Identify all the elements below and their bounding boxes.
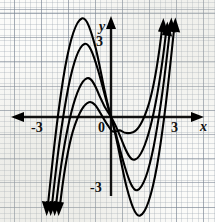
y-axis-label: y	[99, 20, 105, 34]
y-axis-up-arrow	[106, 16, 116, 29]
plot-canvas	[0, 0, 215, 222]
x-tick-label-3: 3	[171, 121, 178, 135]
y-tick-label-neg3: -3	[90, 181, 102, 195]
y-tick-label-3: 3	[96, 35, 103, 49]
graph-figure: y x 3 -3 -3 0 3	[0, 0, 215, 222]
origin-label: 0	[98, 121, 105, 135]
x-axis-label: x	[200, 120, 207, 134]
x-tick-label-neg3: -3	[31, 121, 43, 135]
x-axis-left-arrow	[11, 112, 24, 122]
